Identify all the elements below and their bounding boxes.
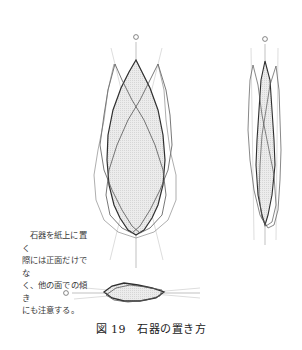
figure-caption: 図 19 石器の置き方 <box>0 320 302 336</box>
annotation-note: 石器を紙上に置く 際には正面だけでな く、他の面での傾き にも注意する。 <box>22 229 94 317</box>
axis-marker-icon <box>263 37 268 42</box>
annotation-line: にも注意する。 <box>22 304 94 317</box>
annotation-text: 石器を紙上に置く <box>22 230 87 253</box>
side-view-drawing <box>248 37 281 245</box>
annotation-line: 石器を紙上に置く <box>22 229 94 254</box>
annotation-line: く、他の面での傾き <box>22 279 94 304</box>
axis-marker-icon <box>134 35 139 40</box>
annotation-line: 際には正面だけでな <box>22 254 94 279</box>
front-view-drawing <box>94 35 176 268</box>
